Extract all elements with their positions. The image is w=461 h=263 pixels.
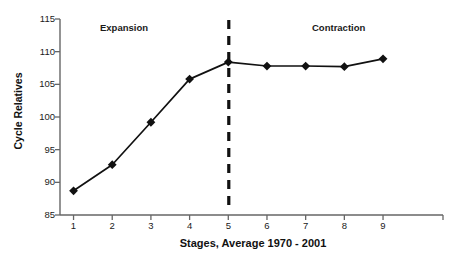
x-tick-label-5: 5 — [218, 221, 238, 231]
annotation-contraction: Contraction — [312, 22, 365, 33]
x-tick-label-2: 2 — [102, 221, 122, 231]
x-tick-label-8: 8 — [334, 221, 354, 231]
annotation-expansion: Expansion — [100, 22, 148, 33]
x-tick-label-4: 4 — [180, 221, 200, 231]
x-tick-label-7: 7 — [296, 221, 316, 231]
x-tick-label-6: 6 — [257, 221, 277, 231]
x-tick-label-9: 9 — [373, 221, 393, 231]
x-axis-title: Stages, Average 1970 - 2001 — [0, 237, 461, 249]
x-axis-tick-label-group: 1 2 3 4 5 6 7 8 9 — [0, 0, 461, 263]
cycle-relatives-line-chart: 115 110 105 100 95 90 85 1 2 3 4 5 6 7 8… — [0, 0, 461, 263]
x-tick-label-3: 3 — [141, 221, 161, 231]
y-axis-title: Cycle Relatives — [12, 46, 24, 176]
x-tick-label-1: 1 — [64, 221, 84, 231]
